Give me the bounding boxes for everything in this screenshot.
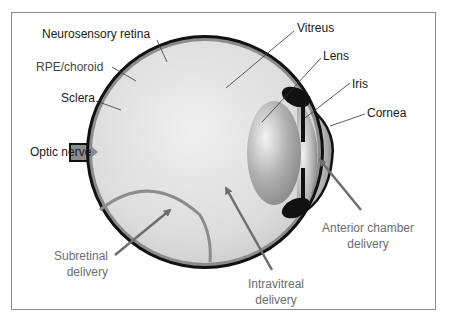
label-sclera: Sclera [61,92,95,105]
label-intravitreal-delivery: Intravitreal delivery [244,278,308,307]
iris-bottom [301,168,305,206]
label-neurosensory-retina: Neurosensory retina [42,28,150,41]
label-iris: Iris [352,78,368,91]
label-optic-nerve: Optic nerve [30,146,91,159]
label-cornea: Cornea [367,107,406,120]
label-rpe-choroid: RPE/choroid [36,61,103,74]
label-subretinal-delivery: Subretinal delivery [44,250,108,279]
label-anterior-chamber-delivery: Anterior chamber delivery [313,222,423,251]
lens [247,101,301,205]
label-lens: Lens [323,50,349,63]
iris-top [301,100,305,142]
eye-diagram: Neurosensory retina RPE/choroid Sclera O… [0,0,449,328]
label-vitreus: Vitreus [297,22,334,35]
